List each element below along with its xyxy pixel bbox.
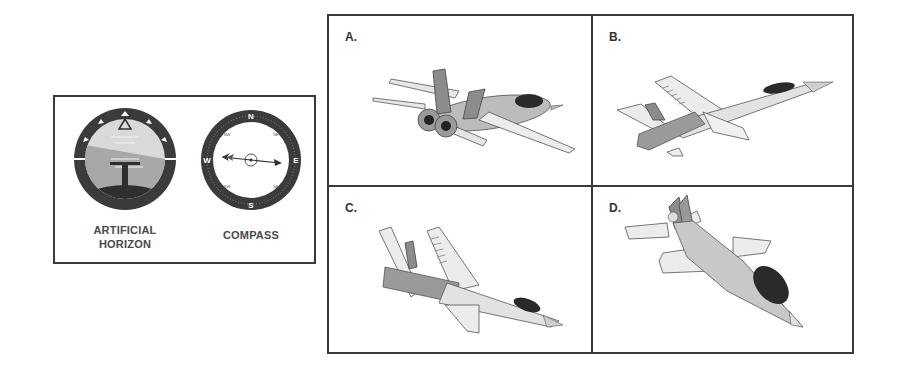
- svg-text:SW: SW: [224, 184, 231, 189]
- options-grid: A. B.: [327, 14, 854, 354]
- label-line1: ARTIFICIAL: [65, 223, 185, 237]
- instruments-panel: ARTIFICIAL HORIZON N S E W NW NE SW SE: [53, 95, 316, 264]
- svg-text:W: W: [203, 156, 211, 165]
- artificial-horizon-icon: [73, 107, 177, 211]
- option-b[interactable]: B.: [593, 16, 854, 185]
- svg-text:S: S: [248, 201, 254, 210]
- svg-text:N: N: [248, 112, 254, 121]
- label-line2: HORIZON: [65, 237, 185, 251]
- artificial-horizon-label: ARTIFICIAL HORIZON: [65, 223, 185, 251]
- svg-text:NE: NE: [273, 132, 279, 137]
- option-c[interactable]: C.: [329, 187, 591, 354]
- compass-label: COMPASS: [205, 228, 297, 242]
- svg-text:NW: NW: [224, 132, 231, 137]
- jet-a-icon: [329, 16, 591, 185]
- jet-c-icon: [329, 187, 591, 354]
- jet-b-icon: [593, 16, 854, 185]
- option-d[interactable]: D.: [593, 187, 854, 354]
- svg-text:E: E: [293, 156, 299, 165]
- compass-icon: N S E W NW NE SW SE: [200, 109, 302, 211]
- svg-text:SE: SE: [273, 184, 279, 189]
- jet-d-icon: [593, 187, 854, 354]
- option-a[interactable]: A.: [329, 16, 591, 185]
